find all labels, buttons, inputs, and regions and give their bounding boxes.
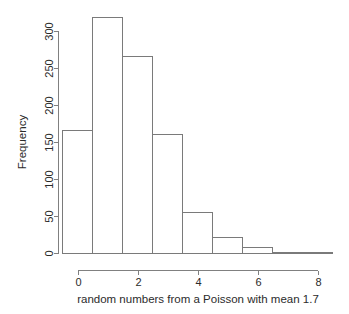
y-tick-label-100: 100 [43, 170, 55, 188]
x-tick-label-4: 4 [195, 276, 201, 288]
x-tick-label-2: 2 [135, 276, 141, 288]
y-tick-label-250: 250 [43, 59, 55, 77]
y-axis-title: Frequency [16, 115, 28, 170]
histogram-bar-3 [153, 134, 183, 253]
histogram-bar-4 [183, 213, 213, 254]
x-tick-label-0: 0 [75, 276, 81, 288]
y-tick-label-200: 200 [43, 96, 55, 114]
x-axis-title: random numbers from a Poisson with mean … [77, 293, 319, 305]
histogram-figure: 0 50 100 150 200 250 300 Frequency [0, 0, 349, 314]
histogram-bar-1 [93, 18, 123, 254]
histogram-bar-0 [63, 131, 93, 254]
histogram-bar-7 [273, 252, 303, 254]
y-tick-label-50: 50 [43, 210, 55, 222]
y-tick-label-300: 300 [43, 22, 55, 40]
histogram-bar-8 [303, 252, 333, 254]
histogram-bar-6 [243, 248, 273, 254]
y-tick-label-150: 150 [43, 133, 55, 151]
histogram-bar-5 [213, 238, 243, 254]
x-tick-label-6: 6 [255, 276, 261, 288]
histogram-canvas: 0 50 100 150 200 250 300 Frequency [0, 0, 349, 314]
y-tick-label-0: 0 [43, 250, 55, 256]
histogram-bar-2 [123, 56, 153, 253]
x-tick-label-8: 8 [315, 276, 321, 288]
